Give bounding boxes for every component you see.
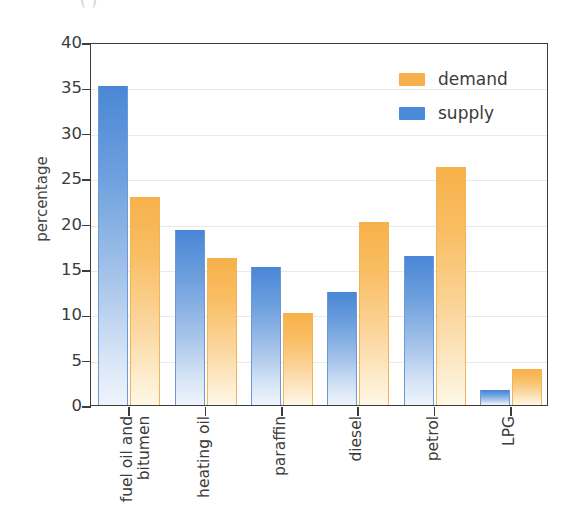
legend-entry-supply: supply bbox=[399, 103, 508, 123]
bar-demand bbox=[359, 222, 389, 405]
y-axis-tick bbox=[82, 361, 91, 362]
y-axis-tick-label: 35 bbox=[34, 78, 82, 97]
bar-demand bbox=[207, 258, 237, 405]
x-axis-tick bbox=[510, 407, 511, 416]
y-axis-tick-label: 10 bbox=[34, 305, 82, 324]
y-axis-tick bbox=[82, 225, 91, 226]
gridline bbox=[91, 180, 547, 181]
x-axis-tick-label: diesel bbox=[348, 416, 365, 462]
y-axis-tick bbox=[82, 89, 91, 90]
bar-demand bbox=[436, 167, 466, 405]
y-axis-tick bbox=[82, 179, 91, 180]
cropped-caption-fragment: ( ) bbox=[80, 0, 410, 9]
bar-demand bbox=[512, 369, 542, 405]
y-axis-tick-label: 5 bbox=[34, 351, 82, 370]
plot-area: demand supply bbox=[90, 43, 548, 406]
x-axis-tick-label: paraffin bbox=[272, 416, 289, 476]
y-axis-tick bbox=[82, 134, 91, 135]
x-axis-tick bbox=[205, 407, 206, 416]
legend-swatch-demand bbox=[399, 73, 425, 86]
x-axis-tick bbox=[128, 407, 129, 416]
bar-supply bbox=[327, 292, 357, 405]
figure: ( ) percentage 0510152025303540 fuel oil… bbox=[0, 0, 573, 522]
bar-supply bbox=[175, 230, 205, 405]
y-axis-tick-label: 15 bbox=[34, 260, 82, 279]
legend-swatch-supply bbox=[399, 107, 425, 120]
y-axis-tick-label: 30 bbox=[34, 124, 82, 143]
bar-demand bbox=[283, 313, 313, 405]
x-axis-tick-label: petrol bbox=[425, 416, 442, 461]
x-axis-tick bbox=[434, 407, 435, 416]
y-axis-tick-label: 40 bbox=[34, 33, 82, 52]
x-axis-tick-label: LPG bbox=[501, 416, 518, 446]
legend-label-demand: demand bbox=[438, 69, 508, 89]
bar-supply bbox=[404, 256, 434, 405]
y-axis-tick bbox=[82, 43, 91, 44]
y-axis-tick-label: 25 bbox=[34, 169, 82, 188]
y-axis-tick-label: 20 bbox=[34, 215, 82, 234]
y-axis-tick-label: 0 bbox=[34, 396, 82, 415]
x-axis-tick-label: heating oil bbox=[196, 416, 213, 498]
bar-demand bbox=[130, 197, 160, 405]
y-axis-tick bbox=[82, 316, 91, 317]
bar-supply bbox=[480, 390, 510, 405]
x-axis-tick-label: fuel oil and bitumen bbox=[119, 416, 154, 502]
legend-label-supply: supply bbox=[438, 103, 494, 123]
y-axis-tick bbox=[82, 406, 91, 407]
y-axis-tick bbox=[82, 270, 91, 271]
bar-supply bbox=[98, 86, 128, 405]
bar-supply bbox=[251, 267, 281, 405]
legend: demand supply bbox=[399, 69, 508, 137]
y-axis-label: percentage bbox=[33, 119, 51, 279]
x-axis-tick bbox=[357, 407, 358, 416]
x-axis-tick bbox=[281, 407, 282, 416]
legend-entry-demand: demand bbox=[399, 69, 508, 89]
